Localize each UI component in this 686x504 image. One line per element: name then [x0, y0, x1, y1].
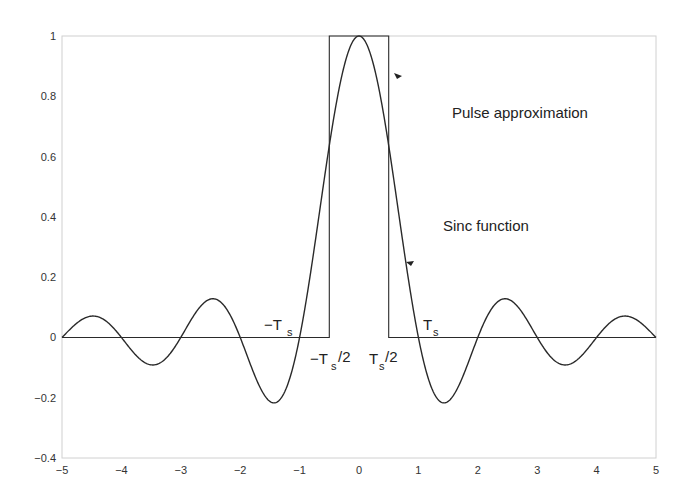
svg-text:s: s — [287, 326, 293, 338]
x-tick-label: −4 — [115, 464, 128, 476]
y-axis-ticks: −0.4−0.200.20.40.60.81 — [34, 30, 56, 464]
svg-text:−T: −T — [264, 316, 282, 333]
x-tick-label: 0 — [356, 464, 362, 476]
y-tick-label: 0.4 — [41, 211, 56, 223]
svg-text:−T: −T — [310, 350, 328, 367]
svg-text:s: s — [331, 360, 337, 372]
y-tick-label: −0.4 — [34, 452, 56, 464]
svg-text:T: T — [369, 350, 378, 367]
pulse-approximation-label: Pulse approximation — [452, 104, 588, 121]
y-tick-label: 0.2 — [41, 271, 56, 283]
pos-ts-label: T s — [423, 316, 439, 338]
sinc-pulse-chart: −0.4−0.200.20.40.60.81 −5−4−3−2−1012345 … — [0, 0, 686, 504]
x-tick-label: −1 — [293, 464, 306, 476]
sinc-pointer-arrow-icon — [406, 261, 414, 266]
y-tick-label: −0.2 — [34, 392, 56, 404]
x-tick-label: 3 — [534, 464, 540, 476]
svg-text:/2: /2 — [385, 348, 398, 365]
y-tick-label: 0.6 — [41, 151, 56, 163]
y-tick-label: 1 — [50, 30, 56, 42]
y-tick-label: 0 — [50, 331, 56, 343]
x-tick-label: −2 — [234, 464, 247, 476]
x-tick-label: 1 — [415, 464, 421, 476]
neg-ts-half-label: −T s /2 — [310, 348, 351, 372]
x-axis-ticks: −5−4−3−2−1012345 — [56, 464, 659, 476]
sinc-function-curve — [62, 36, 656, 403]
pulse-pointer-arrow-icon — [394, 73, 402, 79]
svg-text:s: s — [433, 326, 439, 338]
pulse-approximation-line — [62, 36, 656, 337]
svg-text:/2: /2 — [338, 348, 351, 365]
x-tick-label: −3 — [175, 464, 188, 476]
svg-text:T: T — [423, 316, 432, 333]
plot-frame — [62, 36, 656, 458]
sinc-function-label: Sinc function — [443, 217, 529, 234]
x-tick-label: −5 — [56, 464, 69, 476]
x-tick-label: 5 — [653, 464, 659, 476]
x-tick-label: 2 — [475, 464, 481, 476]
x-tick-label: 4 — [594, 464, 600, 476]
neg-ts-label: −T s — [264, 316, 293, 338]
y-tick-label: 0.8 — [41, 90, 56, 102]
pos-ts-half-label: T s /2 — [369, 348, 398, 372]
